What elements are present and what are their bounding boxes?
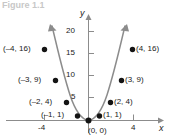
x-tick-label-neg4: -4 — [38, 124, 45, 132]
parabola-figure: Figure 1.1 20 15 10 — [0, 0, 170, 139]
data-point — [130, 47, 135, 52]
data-point — [42, 47, 47, 52]
data-point — [97, 113, 102, 118]
y-tick-label-5: 5 — [71, 93, 75, 101]
point-label-neg2-4: (–2, 4) — [29, 98, 52, 106]
y-tick-label-20: 20 — [66, 27, 75, 35]
y-axis-arrowhead — [86, 14, 92, 20]
parabola-plot — [0, 0, 170, 139]
data-point — [108, 100, 113, 105]
data-point — [64, 100, 69, 105]
curve-arrow-upper-right — [121, 24, 130, 32]
x-axis-label: x — [159, 124, 164, 133]
point-label-neg1-1: (–1, 1) — [41, 111, 64, 119]
point-label-0-0: (0, 0) — [88, 127, 107, 135]
x-tick-label-4: 4 — [131, 124, 135, 132]
point-label-4-16: (4, 16) — [136, 45, 159, 53]
y-tick-label-15: 15 — [66, 49, 75, 57]
data-point — [53, 78, 58, 83]
data-point — [119, 78, 124, 83]
data-point — [86, 118, 92, 124]
point-label-1-1: (1, 1) — [103, 111, 122, 119]
y-tick-label-10: 10 — [66, 71, 75, 79]
parabola-curve-right — [89, 26, 126, 121]
point-label-neg3-9: (–3, 9) — [18, 76, 41, 84]
point-label-2-4: (2, 4) — [114, 98, 133, 106]
y-axis-label: y — [80, 9, 85, 18]
curve-arrow-upper-left — [48, 24, 57, 32]
point-label-3-9: (3, 9) — [125, 76, 144, 84]
point-label-neg4-16: (–4, 16) — [3, 45, 31, 53]
data-point — [75, 113, 80, 118]
